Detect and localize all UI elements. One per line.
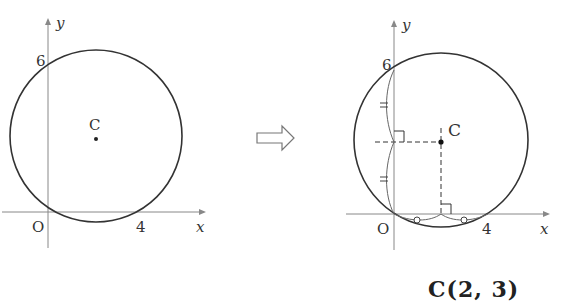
- right-angle-mark-icon: [441, 204, 451, 214]
- x-intercept-label: 4: [482, 220, 492, 238]
- right-hollow-arrow-icon: [257, 126, 294, 150]
- x-axis-label: x: [540, 220, 549, 238]
- center-point: [438, 139, 443, 144]
- center-label: C: [89, 116, 100, 134]
- origin-label: O: [32, 218, 44, 236]
- x-axis-arrow-icon: [199, 209, 206, 215]
- circle: [10, 50, 182, 222]
- center-point: [94, 137, 98, 141]
- circle-tick-icon: [461, 217, 467, 223]
- upper-brace: [387, 70, 395, 142]
- lower-brace: [387, 142, 395, 214]
- left-figure: C y x O 6 4: [2, 14, 206, 248]
- center-coordinates-label: C(2, 3): [428, 276, 519, 302]
- y-axis-label: y: [401, 16, 411, 34]
- x-axis-arrow-icon: [543, 211, 550, 217]
- y-intercept-label: 6: [382, 56, 392, 74]
- x-intercept-label: 4: [136, 218, 146, 236]
- right-figure: C y x O 6 4: [346, 16, 550, 250]
- right-angle-mark-icon: [394, 131, 404, 142]
- y-axis-arrow-icon: [45, 18, 51, 25]
- origin-label: O: [377, 220, 389, 238]
- x-axis-label: x: [196, 218, 205, 236]
- y-axis-label: y: [55, 14, 65, 32]
- circle-tick-icon: [414, 217, 420, 223]
- y-intercept-label: 6: [36, 52, 46, 70]
- center-label: C: [448, 120, 461, 140]
- y-axis-arrow-icon: [391, 20, 397, 27]
